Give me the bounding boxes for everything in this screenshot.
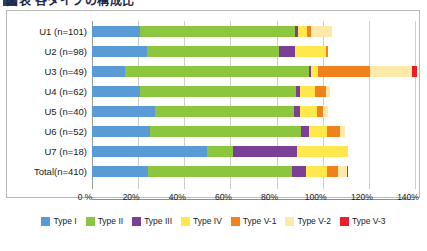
bar-segment-type-i <box>92 126 150 137</box>
legend-swatch-icon <box>231 217 240 226</box>
bar-segment-type-v-1 <box>315 86 326 97</box>
category-label: U1 (n=101) <box>7 22 92 42</box>
bar-segment-type-ii <box>140 26 295 37</box>
x-tick-label: 60% <box>215 192 232 202</box>
bar-segment-type-iv <box>309 126 327 137</box>
chart-legend: Type IType IIType IIIType IVType V-1Type… <box>0 216 427 226</box>
bar-segment-type-i <box>92 66 125 77</box>
bar-row: U4 (n=62) <box>92 82 415 102</box>
bar-segment-type-ii <box>150 126 301 137</box>
bar-segment-type-iv <box>297 146 348 157</box>
x-tick-label: 120% <box>351 192 373 202</box>
bar-segment-type-i <box>92 86 140 97</box>
bar-segment-type-iii <box>292 166 306 177</box>
legend-item[interactable]: Type III <box>132 216 172 226</box>
chart-title-strip: 図表 各タイプの構成比 <box>0 0 427 9</box>
bar-segment-type-ii <box>148 166 292 177</box>
bar-segment-type-v-1 <box>327 166 338 177</box>
plot-area: U1 (n=101)U2 (n=98)U3 (n=49)U4 (n=62)U5 … <box>92 21 415 199</box>
bar-segment-type-v-2 <box>338 166 347 177</box>
legend-label: Type II <box>98 216 124 226</box>
x-axis-tick-labels: 0 %20%40%60%80%100%120%140% <box>85 192 408 204</box>
bar-segment-type-iii <box>301 126 310 137</box>
bar-segment-type-v-2 <box>323 106 329 117</box>
chart-frame: U1 (n=101)U2 (n=98)U3 (n=49)U4 (n=62)U5 … <box>6 10 420 198</box>
legend-item[interactable]: Type V-3 <box>340 216 386 226</box>
bar-segment-type-ii <box>140 86 296 97</box>
bar-segment-type-v-2 <box>370 66 412 77</box>
page-title: 図表 各タイプの構成比 <box>6 0 135 8</box>
legend-swatch-icon <box>86 217 95 226</box>
legend-label: Type V-1 <box>243 216 277 226</box>
x-tick-label: 80% <box>261 192 278 202</box>
legend-swatch-icon <box>132 217 141 226</box>
bar-segment-type-ii <box>147 46 279 57</box>
bar-segment-type-i <box>92 106 155 117</box>
x-tick-label: 40% <box>169 192 186 202</box>
x-tick-label: 100% <box>305 192 327 202</box>
category-label: U4 (n=62) <box>7 82 92 102</box>
bar-segment-type-iv <box>300 106 317 117</box>
category-label: U3 (n=49) <box>7 62 92 82</box>
legend-item[interactable]: Type II <box>86 216 124 226</box>
bar-segment-type-iv <box>298 26 307 37</box>
legend-label: Type IV <box>193 216 222 226</box>
bar-segment-type-iv <box>295 46 326 57</box>
bar-segment-type-v-1 <box>327 126 340 137</box>
legend-item[interactable]: Type I <box>41 216 76 226</box>
bar-segment-type-i <box>92 146 207 157</box>
bar-segment-type-iv <box>300 86 315 97</box>
bar-row: Total(n=410) <box>92 162 415 182</box>
legend-swatch-icon <box>41 217 50 226</box>
bar-segment-type-i <box>92 46 147 57</box>
x-tick-label: 140% <box>397 192 419 202</box>
legend-item[interactable]: Type V-1 <box>231 216 277 226</box>
bar-segment-type-v-1 <box>326 46 328 57</box>
legend-swatch-icon <box>340 217 349 226</box>
legend-label: Type V-3 <box>352 216 386 226</box>
bar-segment-type-iii <box>233 146 297 157</box>
bar-segment-type-ii <box>207 146 233 157</box>
bar-segment-type-ii <box>155 106 293 117</box>
category-label: U7 (n=18) <box>7 142 92 162</box>
bar-row: U7 (n=18) <box>92 142 415 162</box>
bar-row: U3 (n=49) <box>92 62 415 82</box>
bar-segment-type-v-2 <box>340 126 344 137</box>
bar-row: U6 (n=52) <box>92 122 415 142</box>
legend-label: Type V-2 <box>297 216 331 226</box>
bar-row: U2 (n=98) <box>92 42 415 62</box>
bar-segment-type-iv <box>306 166 326 177</box>
legend-label: Type I <box>53 216 76 226</box>
legend-item[interactable]: Type IV <box>181 216 222 226</box>
bar-segment-type-ii <box>125 66 309 77</box>
bar-row: U5 (n=40) <box>92 102 415 122</box>
bar-segment-type-v-3 <box>347 166 348 177</box>
legend-swatch-icon <box>181 217 190 226</box>
category-label: U2 (n=98) <box>7 42 92 62</box>
legend-item[interactable]: Type V-2 <box>285 216 331 226</box>
category-label: U5 (n=40) <box>7 102 92 122</box>
legend-label: Type III <box>144 216 172 226</box>
gridline-140 <box>415 21 416 189</box>
bar-segment-type-iii <box>279 46 295 57</box>
bar-segment-type-v-3 <box>412 66 417 77</box>
category-label: Total(n=410) <box>7 162 92 182</box>
x-tick-label: 20% <box>123 192 140 202</box>
bar-segment-type-i <box>92 26 140 37</box>
bar-rows: U1 (n=101)U2 (n=98)U3 (n=49)U4 (n=62)U5 … <box>92 21 415 199</box>
bar-segment-type-i <box>92 166 148 177</box>
bar-row: U1 (n=101) <box>92 22 415 42</box>
bar-segment-type-v-1 <box>318 66 370 77</box>
category-label: U6 (n=52) <box>7 122 92 142</box>
bar-segment-type-v-2 <box>326 86 330 97</box>
bar-segment-type-iv <box>311 66 318 77</box>
bar-segment-type-v-2 <box>311 26 332 37</box>
legend-swatch-icon <box>285 217 294 226</box>
x-tick-label: 0 % <box>78 192 93 202</box>
